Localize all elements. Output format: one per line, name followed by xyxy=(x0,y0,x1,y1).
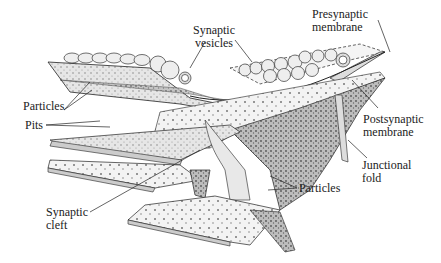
label-synaptic-vesicles: Synaptic vesicles xyxy=(193,24,235,50)
label-particles-bottom: Particles xyxy=(299,182,340,195)
label-synaptic-cleft: Synaptic cleft xyxy=(46,206,88,232)
label-particles-left: Particles xyxy=(23,100,64,113)
label-line: cleft xyxy=(46,219,88,232)
label-pits: Pits xyxy=(25,119,43,132)
label-line: membrane xyxy=(363,126,424,139)
label-postsynaptic-membrane: Postsynaptic membrane xyxy=(363,113,424,139)
lower-left-plate xyxy=(48,160,200,192)
synapse-diagram: Synaptic vesicles Presynaptic membrane P… xyxy=(0,0,441,263)
label-line: membrane xyxy=(312,21,368,34)
label-line: vesicles xyxy=(193,37,235,50)
label-line: fold xyxy=(362,172,411,185)
label-junctional-fold: Junctional fold xyxy=(362,159,411,185)
bottom-front-plate xyxy=(128,196,280,246)
label-presynaptic-membrane: Presynaptic membrane xyxy=(312,8,368,34)
